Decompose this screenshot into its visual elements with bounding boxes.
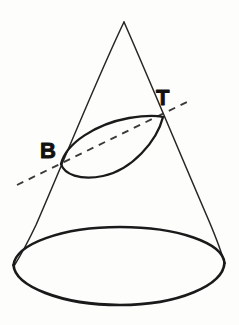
label-b: B	[40, 138, 56, 163]
cone-figure: B T	[0, 0, 239, 325]
figure-background	[0, 0, 239, 325]
cone-diagram-svg: B T	[0, 0, 239, 325]
label-t: T	[156, 85, 170, 110]
